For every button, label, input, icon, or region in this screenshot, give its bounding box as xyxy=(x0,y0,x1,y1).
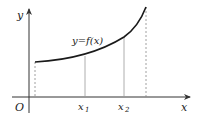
svg-text:x: x xyxy=(78,101,84,112)
function-graph: y x O y=f(x) x 1 x 2 xyxy=(0,0,202,120)
x-axis-label: x xyxy=(181,101,188,114)
x1-tick-label: x 1 xyxy=(78,101,89,114)
x2-tick-label: x 2 xyxy=(118,101,130,114)
origin-label: O xyxy=(15,101,24,114)
y-axis-label: y xyxy=(16,9,24,22)
curve-label: y=f(x) xyxy=(71,35,103,46)
svg-text:x: x xyxy=(118,101,124,112)
svg-text:1: 1 xyxy=(85,106,89,114)
svg-text:2: 2 xyxy=(124,106,130,114)
